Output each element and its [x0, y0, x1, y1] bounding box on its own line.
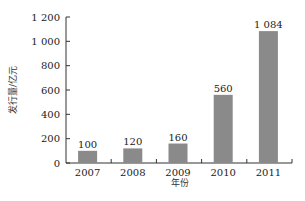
- x-tick-label: 2008: [120, 167, 145, 178]
- bar-2009: [169, 144, 188, 163]
- y-tick-label: 200: [41, 133, 60, 144]
- y-tick-label: 0: [54, 158, 60, 169]
- x-tick-label: 2009: [165, 167, 190, 178]
- y-tick-label: 600: [41, 85, 60, 96]
- y-tick-label: 400: [41, 109, 60, 120]
- bar-2007: [78, 151, 97, 163]
- x-tick-label: 2007: [75, 167, 100, 178]
- bar-value-label: 560: [214, 83, 233, 94]
- x-tick-label: 2010: [210, 167, 235, 178]
- bar-2011: [259, 31, 278, 163]
- y-tick-label: 800: [41, 60, 60, 71]
- x-tick-label: 2011: [256, 167, 281, 178]
- y-tick-label: 1 000: [31, 36, 60, 47]
- bar-chart: 02004006008001 0001 200 1002007120200816…: [0, 0, 305, 201]
- bar-value-label: 160: [168, 132, 187, 143]
- bar-value-label: 100: [78, 139, 97, 150]
- bars: 10020071202008160200956020101 0842011: [75, 19, 283, 178]
- bar-2010: [214, 95, 233, 163]
- bar-2008: [123, 148, 142, 163]
- bar-value-label: 120: [123, 136, 142, 147]
- y-tick-label: 1 200: [31, 12, 60, 23]
- y-axis-title: 发行量/亿元: [7, 66, 18, 114]
- bar-value-label: 1 084: [254, 19, 283, 30]
- y-axis: 02004006008001 0001 200: [31, 12, 70, 169]
- x-axis-title: 年份: [171, 177, 189, 188]
